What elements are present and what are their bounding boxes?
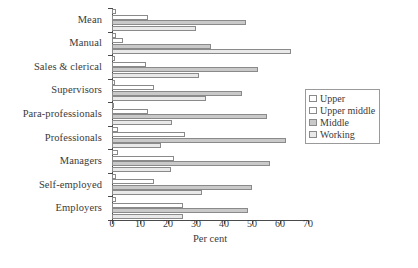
bar: [112, 96, 206, 101]
bar: [112, 80, 115, 85]
legend-item: Middle: [309, 116, 375, 128]
chart-legend: UpperUpper middleMiddleWorking: [305, 89, 380, 144]
bar: [112, 56, 115, 61]
bar: [112, 85, 154, 90]
legend-item-label: Upper middle: [320, 105, 375, 116]
bar: [112, 132, 185, 137]
bar: [112, 38, 123, 43]
x-axis-tick-label: 0: [110, 218, 115, 229]
bar: [112, 120, 172, 125]
y-axis-tick-label: Employers: [56, 202, 102, 213]
bar: [112, 208, 248, 213]
bar-group: [112, 80, 308, 102]
bar-chart: MeanManualSales & clericalSupervisorsPar…: [0, 0, 418, 268]
y-axis-tick: [108, 126, 112, 127]
bar: [112, 167, 171, 172]
bar-group: [112, 103, 308, 125]
bar: [112, 103, 114, 108]
bar: [112, 15, 148, 20]
bar: [112, 143, 161, 148]
bar-group: [112, 197, 308, 219]
bar: [112, 26, 196, 31]
bar: [112, 91, 242, 96]
y-axis-tick-label: Self-employed: [39, 179, 102, 190]
x-axis-tick-label: 30: [191, 218, 201, 229]
bar: [112, 150, 118, 155]
bar: [112, 174, 116, 179]
x-axis-tick-label: 70: [303, 218, 313, 229]
x-axis-tick-label: 60: [275, 218, 285, 229]
bar-group: [112, 174, 308, 196]
bar: [112, 114, 267, 119]
legend-item-label: Middle: [320, 117, 349, 128]
bar: [112, 127, 118, 132]
legend-swatch-icon: [309, 131, 317, 138]
bar: [112, 49, 291, 54]
y-axis-tick-label: Sales & clerical: [34, 61, 102, 72]
legend-item: Working: [309, 128, 375, 140]
x-axis-tick-label: 50: [247, 218, 257, 229]
bar: [112, 62, 146, 67]
y-axis-tick: [108, 102, 112, 103]
legend-item: Upper: [309, 92, 375, 104]
legend-item-label: Upper: [320, 93, 345, 104]
bar: [112, 185, 252, 190]
y-axis-tick-label: Professionals: [45, 132, 102, 143]
y-axis-tick-label: Supervisors: [51, 84, 102, 95]
legend-swatch-icon: [309, 95, 317, 102]
bar: [112, 109, 148, 114]
y-axis-tick: [108, 8, 112, 9]
bar: [112, 73, 199, 78]
bar-group: [112, 9, 308, 31]
y-axis-tick-label: Managers: [60, 155, 102, 166]
legend-item: Upper middle: [309, 104, 375, 116]
y-axis-tick: [108, 55, 112, 56]
bar: [112, 20, 246, 25]
bar-group: [112, 56, 308, 78]
bar: [112, 67, 258, 72]
bar: [112, 138, 286, 143]
bar: [112, 156, 174, 161]
y-axis-tick: [108, 149, 112, 150]
bar: [112, 161, 270, 166]
legend-item-label: Working: [320, 129, 355, 140]
plot-area: [112, 8, 308, 220]
bar: [112, 190, 202, 195]
x-axis-tick-label: 20: [163, 218, 173, 229]
x-axis-tick-label: 40: [219, 218, 229, 229]
bar: [112, 203, 183, 208]
x-axis-title: Per cent: [112, 233, 308, 244]
y-axis-tick: [108, 173, 112, 174]
bar-group: [112, 127, 308, 149]
bar: [112, 179, 154, 184]
bar: [112, 33, 116, 38]
y-axis-tick: [108, 196, 112, 197]
bar: [112, 44, 211, 49]
y-axis-tick: [108, 79, 112, 80]
y-axis-tick-label: Mean: [78, 14, 102, 25]
bar-group: [112, 33, 308, 55]
y-axis-category-labels: MeanManualSales & clericalSupervisorsPar…: [0, 8, 107, 220]
legend-swatch-icon: [309, 107, 317, 114]
y-axis-tick-label: Para-professionals: [23, 108, 102, 119]
y-axis-tick-label: Manual: [69, 37, 102, 48]
y-axis-tick: [108, 32, 112, 33]
x-axis-tick-label: 10: [135, 218, 145, 229]
bar: [112, 9, 116, 14]
bar-group: [112, 150, 308, 172]
legend-swatch-icon: [309, 119, 317, 126]
bar: [112, 197, 116, 202]
